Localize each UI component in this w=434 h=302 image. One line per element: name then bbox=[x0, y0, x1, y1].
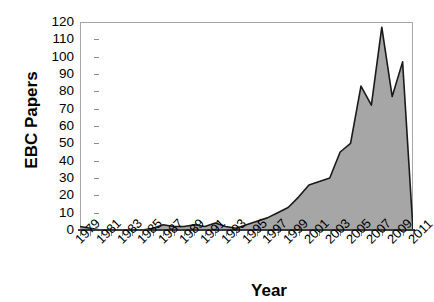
y-tick-label: 80 bbox=[28, 84, 74, 97]
y-tick-label: 90 bbox=[28, 67, 74, 80]
x-axis-title-text: Year bbox=[251, 281, 287, 300]
y-tick-label: 0 bbox=[28, 223, 74, 236]
y-tick-label: 50 bbox=[28, 136, 74, 149]
plot-area bbox=[80, 22, 413, 230]
y-axis-tick-labels: 1201101009080706050403020100 bbox=[20, 0, 74, 302]
area-series-ebc-papers bbox=[80, 22, 413, 230]
y-tick-label: 20 bbox=[28, 188, 74, 201]
y-tick-label: 110 bbox=[28, 32, 74, 45]
y-tick-label: 120 bbox=[28, 15, 74, 28]
y-tick-label: 60 bbox=[28, 119, 74, 132]
y-tick-label: 40 bbox=[28, 154, 74, 167]
y-tick-label: 10 bbox=[28, 206, 74, 219]
y-tick-label: 100 bbox=[28, 50, 74, 63]
ebc-papers-area-chart: EBC Papers 1201101009080706050403020100 … bbox=[0, 0, 434, 302]
x-axis-title: Year bbox=[0, 281, 434, 301]
y-tick-label: 70 bbox=[28, 102, 74, 115]
y-tick-label: 30 bbox=[28, 171, 74, 184]
